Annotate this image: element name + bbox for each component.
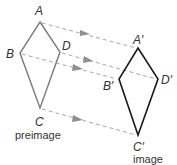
- image-kite: [119, 48, 158, 135]
- label-b: B: [6, 47, 14, 61]
- arrow-b: [22, 54, 117, 79]
- arrowhead-c-icon: [72, 115, 83, 122]
- translation-diagram: A B D C preimage A′ B′ D′ C′ image: [0, 0, 177, 165]
- arrowhead-b-icon: [72, 64, 83, 71]
- preimage-caption: preimage: [15, 129, 61, 141]
- label-a-prime: A′: [132, 33, 144, 47]
- label-b-prime: B′: [103, 79, 114, 93]
- arrowhead-a-icon: [80, 30, 90, 36]
- label-c-prime: C′: [133, 140, 145, 154]
- label-d-prime: D′: [161, 73, 173, 87]
- arrowhead-d-icon: [83, 56, 93, 63]
- label-a: A: [34, 4, 43, 18]
- preimage-kite: [20, 22, 60, 108]
- label-d: D: [62, 39, 71, 53]
- arrow-a: [42, 23, 136, 48]
- arrowheads: [72, 30, 93, 122]
- label-c: C: [35, 115, 44, 129]
- image-caption: image: [133, 153, 163, 165]
